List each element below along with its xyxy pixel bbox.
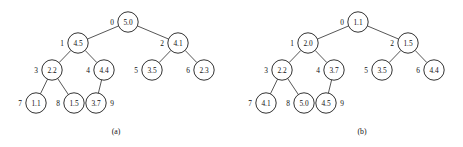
node-value-label: 4.5 xyxy=(321,99,331,108)
node-value-label: 1.1 xyxy=(353,18,363,27)
tree-edge xyxy=(270,79,277,94)
tree-node[interactable]: 4.44 xyxy=(86,60,114,80)
tree-node[interactable]: 4.17 xyxy=(248,93,276,113)
node-index-label: 6 xyxy=(416,66,420,75)
tree-edge xyxy=(415,50,427,62)
node-value-label: 1.1 xyxy=(31,99,41,108)
node-index-label: 5 xyxy=(134,66,138,75)
node-index-label: 2 xyxy=(390,39,394,48)
node-value-label: 4.1 xyxy=(261,99,271,108)
node-value-label: 4.5 xyxy=(73,39,83,48)
node-index-label: 9 xyxy=(110,99,114,108)
tree-edge xyxy=(58,78,69,94)
tree-node[interactable]: 2.23 xyxy=(34,60,62,80)
node-value-label: 5.0 xyxy=(299,99,309,108)
node-value-label: 2.2 xyxy=(277,66,287,75)
tree-node[interactable]: 2.01 xyxy=(290,33,318,53)
node-value-label: 4.4 xyxy=(429,66,439,75)
node-index-label: 3 xyxy=(34,66,38,75)
node-index-label: 0 xyxy=(110,18,114,27)
tree-node[interactable]: 4.46 xyxy=(416,60,444,80)
tree-node[interactable]: 4.51 xyxy=(60,33,88,53)
tree-edge xyxy=(315,50,327,62)
node-index-label: 1 xyxy=(290,39,294,48)
node-index-label: 2 xyxy=(160,39,164,48)
tree-node[interactable]: 3.55 xyxy=(134,60,162,80)
tree-edge xyxy=(367,26,398,39)
node-index-label: 7 xyxy=(18,99,22,108)
node-value-label: 2.2 xyxy=(47,66,57,75)
node-index-label: 6 xyxy=(186,66,190,75)
node-value-label: 5.0 xyxy=(123,18,133,27)
panel-caption: (b) xyxy=(357,127,366,136)
node-value-label: 1.5 xyxy=(403,39,413,48)
node-index-label: 8 xyxy=(286,99,290,108)
node-index-label: 4 xyxy=(316,66,320,75)
node-value-label: 2.0 xyxy=(303,39,313,48)
node-value-label: 3.5 xyxy=(377,66,387,75)
node-value-label: 4.4 xyxy=(99,66,109,75)
node-index-label: 8 xyxy=(56,99,60,108)
binary-tree-figure: 5.004.514.122.234.443.552.361.171.583.79… xyxy=(0,0,463,147)
node-index-label: 5 xyxy=(364,66,368,75)
tree-node[interactable]: 2.23 xyxy=(264,60,292,80)
panel-b: 1.102.011.522.233.743.554.464.175.084.59… xyxy=(248,12,444,136)
node-index-label: 7 xyxy=(248,99,252,108)
tree-edge xyxy=(87,26,118,39)
tree-edge xyxy=(328,80,331,93)
tree-diagram-canvas: 5.004.514.122.234.443.552.361.171.583.79… xyxy=(0,0,463,147)
tree-edge xyxy=(185,50,197,62)
tree-node[interactable]: 3.55 xyxy=(364,60,392,80)
tree-edge xyxy=(85,50,97,62)
tree-node[interactable]: 1.10 xyxy=(340,12,368,32)
tree-node[interactable]: 1.52 xyxy=(390,33,418,53)
node-index-label: 0 xyxy=(340,18,344,27)
tree-edge xyxy=(137,26,168,39)
tree-edge xyxy=(289,50,301,62)
node-value-label: 1.5 xyxy=(69,99,79,108)
node-index-label: 4 xyxy=(86,66,90,75)
node-value-label: 3.7 xyxy=(91,99,101,108)
tree-edge xyxy=(389,50,401,62)
tree-node[interactable]: 1.17 xyxy=(18,93,46,113)
node-value-label: 3.5 xyxy=(147,66,157,75)
tree-edge xyxy=(98,80,101,93)
tree-edge xyxy=(59,50,71,62)
tree-node[interactable]: 3.79 xyxy=(86,93,114,113)
tree-node[interactable]: 1.58 xyxy=(56,93,84,113)
node-index-label: 1 xyxy=(60,39,64,48)
tree-node[interactable]: 5.00 xyxy=(110,12,138,32)
node-value-label: 2.3 xyxy=(199,66,209,75)
tree-edge xyxy=(159,50,171,62)
node-index-label: 9 xyxy=(340,99,344,108)
tree-edge xyxy=(40,79,47,94)
tree-node[interactable]: 2.36 xyxy=(186,60,214,80)
tree-node[interactable]: 5.08 xyxy=(286,93,314,113)
node-index-label: 3 xyxy=(264,66,268,75)
panel-caption: (a) xyxy=(112,127,121,136)
tree-edge xyxy=(288,78,299,94)
tree-edge xyxy=(317,26,348,39)
node-value-label: 3.7 xyxy=(329,66,339,75)
tree-node[interactable]: 3.74 xyxy=(316,60,344,80)
panel-a: 5.004.514.122.234.443.552.361.171.583.79… xyxy=(18,12,214,136)
node-value-label: 4.1 xyxy=(173,39,183,48)
tree-node[interactable]: 4.12 xyxy=(160,33,188,53)
tree-node[interactable]: 4.59 xyxy=(316,93,344,113)
